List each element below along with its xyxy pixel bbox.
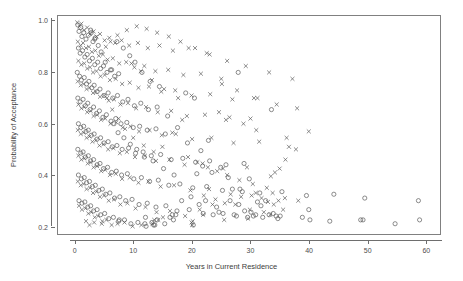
x-tick — [75, 240, 76, 244]
data-point-cross — [88, 223, 92, 227]
data-point-circle — [122, 136, 126, 140]
x-tick-label: 10 — [129, 247, 137, 254]
data-point-cross — [76, 59, 80, 63]
x-tick — [368, 240, 369, 244]
data-point-cross — [123, 220, 127, 224]
data-point-cross — [176, 96, 180, 100]
data-point-cross — [237, 178, 241, 182]
data-point-circle — [307, 208, 311, 212]
data-point-cross — [255, 96, 259, 100]
data-point-cross — [135, 24, 139, 28]
data-point-cross — [90, 140, 94, 144]
data-point-cross — [148, 128, 152, 132]
data-point-cross — [283, 196, 287, 200]
data-point-cross — [131, 136, 135, 140]
data-point-cross — [223, 201, 227, 205]
data-point-cross — [118, 151, 122, 155]
data-point-cross — [105, 96, 109, 100]
data-point-cross — [106, 147, 110, 151]
data-point-circle — [238, 187, 242, 191]
data-point-cross — [152, 218, 156, 222]
data-point-circle — [126, 97, 130, 101]
data-point-cross — [137, 129, 141, 133]
data-point-circle — [143, 222, 147, 226]
data-point-cross — [132, 65, 136, 69]
data-point-circle — [189, 195, 193, 199]
data-point-cross — [271, 191, 275, 195]
data-point-circle — [137, 202, 141, 206]
data-point-cross — [188, 188, 192, 192]
y-tick-label: 0.2 — [38, 224, 48, 231]
data-point-cross — [248, 117, 252, 121]
data-point-circle — [363, 196, 367, 200]
data-point-circle — [228, 199, 232, 203]
data-point-cross — [118, 103, 122, 107]
data-point-cross — [76, 40, 80, 44]
data-point-circle — [119, 122, 123, 126]
data-point-cross — [77, 204, 81, 208]
data-point-circle — [125, 120, 129, 124]
data-point-cross — [281, 208, 285, 212]
y-tick-label: 0.6 — [38, 120, 48, 127]
data-point-circle — [132, 177, 136, 181]
data-point-circle — [211, 213, 215, 217]
data-point-circle — [145, 128, 149, 132]
data-point-circle — [91, 105, 95, 109]
series-circle-group — [75, 23, 422, 228]
data-point-cross — [244, 64, 248, 68]
data-point-circle — [258, 191, 262, 195]
data-point-circle — [280, 190, 284, 194]
x-axis-title: Years in Current Residence — [0, 262, 463, 271]
data-point-circle — [164, 204, 168, 208]
x-tick — [250, 240, 251, 244]
data-point-cross — [252, 96, 256, 100]
data-point-circle — [76, 173, 80, 177]
data-point-circle — [181, 156, 185, 160]
data-point-cross — [285, 136, 289, 140]
data-point-cross — [85, 110, 89, 114]
data-point-cross — [142, 144, 146, 148]
data-point-circle — [154, 127, 158, 131]
data-point-cross — [94, 138, 98, 142]
data-point-cross — [267, 70, 271, 74]
data-point-cross — [265, 186, 269, 190]
data-point-cross — [203, 113, 207, 117]
data-point-cross — [169, 109, 173, 113]
data-point-circle — [96, 43, 100, 47]
data-point-cross — [136, 181, 140, 185]
data-point-cross — [153, 69, 157, 73]
data-point-cross — [99, 169, 103, 173]
data-point-cross — [167, 35, 171, 39]
data-point-cross — [107, 99, 111, 103]
data-point-cross — [193, 46, 197, 50]
data-point-cross — [127, 44, 131, 48]
data-point-circle — [82, 75, 86, 79]
data-point-circle — [130, 197, 134, 201]
x-tick-label: 60 — [422, 247, 430, 254]
data-point-cross — [174, 132, 178, 136]
data-point-cross — [222, 218, 226, 222]
data-point-cross — [207, 187, 211, 191]
data-point-cross — [161, 215, 165, 219]
data-point-cross — [206, 165, 210, 169]
y-axis-line — [51, 18, 52, 226]
data-point-cross — [199, 72, 203, 76]
data-point-cross — [251, 182, 255, 186]
data-point-circle — [255, 200, 259, 204]
data-point-circle — [163, 222, 167, 226]
x-tick-label: 50 — [364, 247, 372, 254]
data-point-circle — [178, 182, 182, 186]
data-point-circle — [90, 86, 94, 90]
data-point-circle — [99, 50, 103, 54]
data-point-cross — [93, 49, 97, 53]
data-point-cross — [120, 177, 124, 181]
data-point-circle — [87, 79, 91, 83]
data-point-circle — [97, 109, 101, 113]
data-point-cross — [185, 114, 189, 118]
data-point-cross — [260, 196, 264, 200]
data-point-cross — [103, 38, 107, 42]
data-point-circle — [80, 49, 84, 53]
y-tick — [51, 124, 55, 125]
data-point-circle — [157, 84, 161, 88]
data-point-cross — [129, 61, 133, 65]
